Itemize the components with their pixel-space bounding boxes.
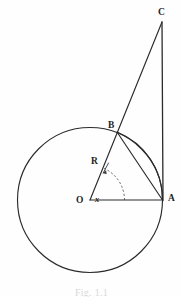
label-angle-x: x: [95, 195, 99, 204]
label-center-o: O: [76, 196, 83, 206]
figure-caption: Fig. 1.1: [0, 287, 183, 297]
angle-arc-x: [104, 168, 125, 200]
segment-ca-tangent: [162, 22, 163, 201]
label-point-b: B: [108, 121, 114, 131]
geometry-figure: C B A O R x Fig. 1.1: [0, 0, 183, 297]
segment-oc-through-b: [90, 22, 162, 200]
geometry-canvas: [0, 0, 183, 297]
label-radius-r: R: [91, 157, 98, 167]
segment-ba-chord: [117, 132, 163, 200]
label-point-c: C: [158, 8, 165, 18]
label-point-a: A: [168, 194, 175, 204]
